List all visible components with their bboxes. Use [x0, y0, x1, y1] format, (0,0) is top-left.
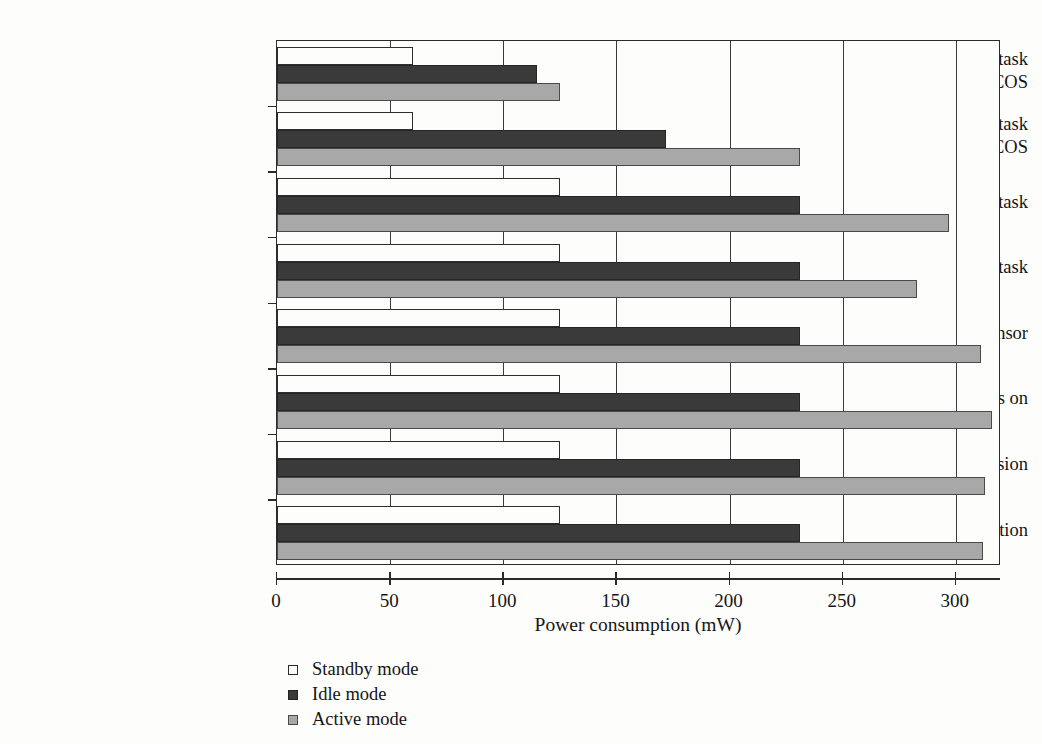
bar-active-0: [277, 83, 560, 101]
plot-area: [276, 40, 1000, 565]
x-tick-label-100: 100: [467, 590, 537, 612]
bar-standby-0: [277, 47, 413, 65]
x-tick-200: [729, 572, 730, 585]
x-tick-100: [502, 572, 503, 585]
legend-label: Active mode: [312, 709, 407, 730]
bar-active-5: [277, 411, 992, 429]
bar-active-7: [277, 542, 983, 560]
x-tick-250: [842, 572, 843, 585]
chart-page: Processor-bound taskw/13 MHz w/o POBICOS…: [0, 0, 1042, 744]
x-axis-line: [276, 578, 1000, 580]
x-tick-label-0: 0: [241, 590, 311, 612]
bar-idle-3: [277, 262, 800, 280]
bar-idle-0: [277, 65, 537, 83]
bar-idle-5: [277, 393, 800, 411]
x-axis-title: Power consumption (mW): [276, 614, 1000, 636]
bar-active-3: [277, 280, 917, 298]
x-tick-label-250: 250: [807, 590, 877, 612]
legend-item-idle: Idle mode: [288, 682, 418, 707]
bar-standby-2: [277, 178, 560, 196]
legend-label: Idle mode: [312, 684, 387, 705]
x-tick-150: [615, 572, 616, 585]
bar-idle-2: [277, 196, 800, 214]
x-tick-label-50: 50: [354, 590, 424, 612]
x-tick-0: [276, 572, 277, 585]
bar-standby-5: [277, 375, 560, 393]
bar-standby-1: [277, 112, 413, 130]
bar-idle-6: [277, 459, 800, 477]
x-tick-label-150: 150: [580, 590, 650, 612]
bar-standby-3: [277, 244, 560, 262]
bar-active-1: [277, 148, 800, 166]
legend-swatch-idle-icon: [288, 690, 298, 700]
bar-standby-6: [277, 441, 560, 459]
bar-active-2: [277, 214, 949, 232]
legend-label: Standby mode: [312, 659, 418, 680]
legend-item-active: Active mode: [288, 707, 418, 732]
bar-idle-4: [277, 327, 800, 345]
bar-standby-4: [277, 309, 560, 327]
x-tick-label-300: 300: [920, 590, 990, 612]
legend-item-standby: Standby mode: [288, 657, 418, 682]
x-tick-label-200: 200: [694, 590, 764, 612]
bar-active-6: [277, 477, 985, 495]
x-tick-50: [389, 572, 390, 585]
bar-idle-1: [277, 130, 666, 148]
legend-swatch-standby-icon: [288, 665, 298, 675]
x-tick-300: [955, 572, 956, 585]
bar-active-4: [277, 345, 981, 363]
legend-swatch-active-icon: [288, 715, 298, 725]
bar-idle-7: [277, 524, 800, 542]
legend: Standby modeIdle modeActive mode: [288, 657, 418, 732]
bar-standby-7: [277, 506, 560, 524]
